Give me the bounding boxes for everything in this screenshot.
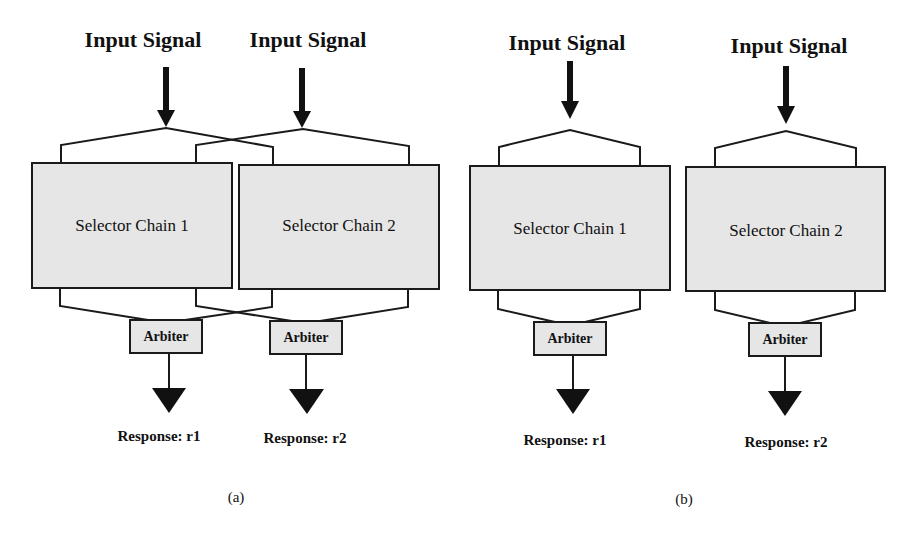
output-arrow-icon: [768, 391, 802, 416]
input-arrow-icon: [157, 110, 175, 127]
arbiter-label-b2: Arbiter: [762, 332, 807, 348]
input-signal-label-a2: Input Signal: [250, 27, 367, 53]
input-signal-label-b2: Input Signal: [731, 33, 848, 59]
caption-b: (b): [675, 491, 693, 508]
input-arrow-icon: [777, 106, 795, 124]
input-arrow-icon: [293, 111, 311, 128]
input-splitter-a2: [196, 129, 409, 165]
selector-chain-label-a1: Selector Chain 1: [75, 216, 188, 236]
arbiter-label-b1: Arbiter: [547, 331, 592, 347]
input-splitter-b2: [715, 131, 856, 167]
input-signal-label-b1: Input Signal: [509, 30, 626, 56]
response-label-a2: Response: r2: [264, 430, 347, 447]
output-arrow-icon: [289, 389, 324, 414]
selector-chain-label-b1: Selector Chain 1: [513, 219, 626, 239]
response-label-b2: Response: r2: [745, 434, 828, 451]
output-merger-a1: [60, 288, 148, 320]
arbiter-label-a2: Arbiter: [283, 330, 328, 346]
response-label-b1: Response: r1: [524, 432, 607, 449]
input-splitter-b1: [499, 130, 640, 166]
input-splitter-a1: [61, 128, 273, 165]
output-merger-b1: [498, 290, 640, 322]
input-arrow-icon: [561, 101, 579, 119]
selector-chain-label-a2: Selector Chain 2: [282, 216, 395, 236]
selector-chain-label-b2: Selector Chain 2: [729, 221, 842, 241]
diagram-canvas: [0, 0, 915, 539]
input-signal-label-a1: Input Signal: [85, 27, 202, 53]
arbiter-label-a1: Arbiter: [143, 329, 188, 345]
output-arrow-icon: [556, 389, 590, 414]
output-merger-b2: [715, 291, 855, 323]
caption-a: (a): [228, 489, 245, 506]
output-arrow-icon: [152, 388, 186, 413]
output-merger-a2b: [320, 289, 408, 321]
response-label-a1: Response: r1: [118, 428, 201, 445]
